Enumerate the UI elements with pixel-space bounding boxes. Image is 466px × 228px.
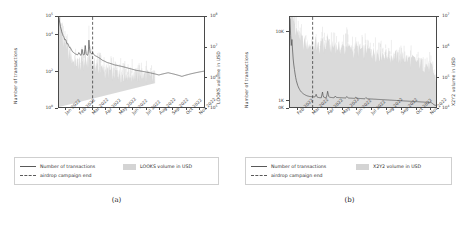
figure-container: Number of transactions LOOKS volume in U… xyxy=(0,0,466,228)
y-tick-mark-right xyxy=(205,16,207,17)
y-tick-mark-left xyxy=(55,16,57,17)
y-tick-right: 104 xyxy=(442,105,466,110)
y-tick-right: 107 xyxy=(210,44,234,49)
legend-dash-swatch xyxy=(20,175,36,176)
subfigure-a: Number of transactions LOOKS volume in U… xyxy=(0,0,233,228)
y-tick-left: 102 xyxy=(31,69,53,74)
y-tick-right: 106 xyxy=(210,75,234,80)
y-tick-mark-right xyxy=(205,47,207,48)
y-tick-mark-right xyxy=(205,77,207,78)
legend-label-transactions: Number of transactions xyxy=(271,164,326,169)
y-tick-left: 105 xyxy=(31,13,53,18)
y-tick-mark-left xyxy=(286,100,288,101)
legend-label-transactions: Number of transactions xyxy=(40,164,95,169)
y-tick-mark-left xyxy=(55,71,57,72)
legend-b: Number of transactions airdrop campaign … xyxy=(245,157,452,185)
plot-area-b xyxy=(289,16,437,108)
y-tick-left: 10K xyxy=(264,29,284,34)
series-canvas-b xyxy=(290,17,436,107)
series-canvas-a xyxy=(59,17,204,107)
legend-entry-volume-a: LOOKS volume in USD xyxy=(123,162,192,171)
y-tick-right: 105 xyxy=(210,105,234,110)
y-tick-right: 105 xyxy=(442,75,466,80)
legend-area-swatch xyxy=(123,164,136,170)
legend-label-airdrop: airdrop campaign end xyxy=(271,173,323,178)
legend-line-swatch xyxy=(20,166,36,167)
legend-entry-transactions-a: Number of transactions xyxy=(20,162,95,171)
legend-label-volume: X2Y2 volume in USD xyxy=(373,164,421,169)
y-tick-mark-left xyxy=(55,34,57,35)
y-tick-left: 100 xyxy=(31,105,53,110)
legend-area-swatch xyxy=(356,164,369,170)
subfigure-caption-b: (b) xyxy=(233,196,466,204)
y-tick-mark-right xyxy=(437,16,439,17)
plot-area-a xyxy=(58,16,205,108)
y-tick-left: 1K xyxy=(264,98,284,103)
legend-entry-airdrop-a: airdrop campaign end xyxy=(20,171,92,180)
y-tick-left: 104 xyxy=(31,32,53,37)
legend-label-volume: LOOKS volume in USD xyxy=(140,164,192,169)
y-tick-mark-right xyxy=(437,47,439,48)
subfigure-b: Number of transactions X2Y2 volume in US… xyxy=(233,0,466,228)
legend-entry-airdrop-b: airdrop campaign end xyxy=(251,171,323,180)
legend-line-swatch xyxy=(251,166,267,167)
y-tick-right: 108 xyxy=(210,13,234,18)
y-tick-right: 106 xyxy=(442,44,466,49)
y-tick-mark-left xyxy=(55,108,57,109)
y-tick-mark-right xyxy=(437,77,439,78)
legend-entry-transactions-b: Number of transactions xyxy=(251,162,326,171)
y-tick-right: 107 xyxy=(442,13,466,18)
legend-entry-volume-b: X2Y2 volume in USD xyxy=(356,162,421,171)
subfigure-caption-a: (a) xyxy=(0,196,233,204)
y-tick-mark-left xyxy=(286,108,288,109)
y-axis-label-right-b: X2Y2 volume in USD xyxy=(451,57,456,106)
y-axis-label-left-a: Number of transactions xyxy=(13,48,18,104)
y-tick-left: 0K xyxy=(264,105,284,110)
y-tick-mark-left xyxy=(286,31,288,32)
y-axis-label-left-b: Number of transactions xyxy=(244,52,249,108)
legend-a: Number of transactions airdrop campaign … xyxy=(14,157,219,185)
legend-label-airdrop: airdrop campaign end xyxy=(40,173,92,178)
legend-dash-swatch xyxy=(251,175,267,176)
